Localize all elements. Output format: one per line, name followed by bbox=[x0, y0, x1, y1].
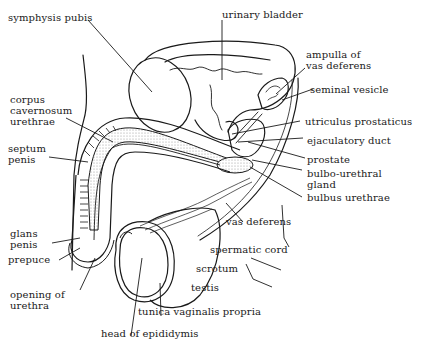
label-scrotum: scrotum bbox=[196, 263, 238, 274]
label-septum-penis: septum penis bbox=[8, 143, 46, 165]
seminal-vesicle-shape bbox=[258, 78, 288, 110]
tunica-vaginalis-shape bbox=[115, 222, 174, 302]
label-bulbo-urethral-gland: bulbo-urethral gland bbox=[307, 168, 382, 190]
label-tunica-vaginalis-propria: tunica vaginalis propria bbox=[138, 306, 261, 317]
label-utriculus-prostaticus: utriculus prostaticus bbox=[305, 116, 412, 127]
testis-shape bbox=[120, 228, 168, 297]
label-opening-of-urethra: opening of urethra bbox=[10, 289, 65, 311]
label-bulbus-urethrae: bulbus urethrae bbox=[307, 192, 390, 203]
label-glans-penis: glans penis bbox=[10, 228, 38, 250]
label-prepuce: prepuce bbox=[8, 254, 50, 265]
anatomy-diagram: symphysis pubis urinary bladder ampulla … bbox=[0, 0, 423, 357]
symphysis-pubis-shape bbox=[119, 49, 201, 141]
label-corpus-cavernosum-urethrae: corpus cavernosum urethrae bbox=[10, 94, 72, 127]
label-ejaculatory-duct: ejaculatory duct bbox=[307, 135, 391, 146]
label-symphysis-pubis: symphysis pubis bbox=[8, 12, 92, 23]
label-seminal-vesicle: seminal vesicle bbox=[310, 84, 389, 95]
label-urinary-bladder: urinary bladder bbox=[222, 9, 303, 20]
bulbus-urethrae-shape bbox=[217, 157, 253, 173]
label-testis: testis bbox=[191, 282, 219, 293]
label-ampulla-of-vas-deferens: ampulla of vas deferens bbox=[306, 49, 371, 71]
label-spermatic-cord: spermatic cord bbox=[210, 244, 288, 255]
label-vas-deferens: vas deferens bbox=[226, 216, 291, 227]
label-head-of-epididymis: head of epididymis bbox=[101, 328, 199, 339]
label-prostate: prostate bbox=[307, 154, 350, 165]
